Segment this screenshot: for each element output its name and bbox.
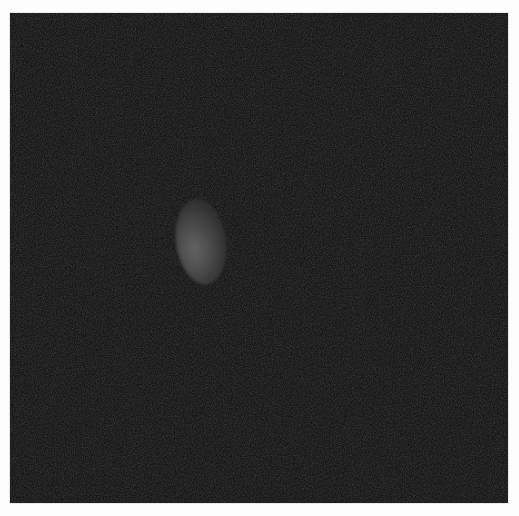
- scan-image: [10, 13, 508, 503]
- image-canvas: [0, 0, 519, 516]
- speckle-noise: [10, 13, 508, 503]
